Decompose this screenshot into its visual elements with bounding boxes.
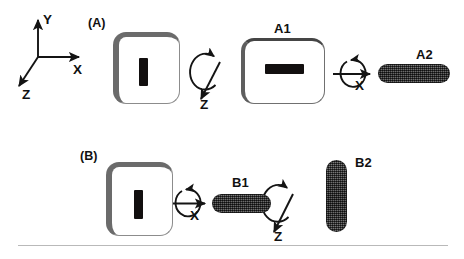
rotation-sequence-figure: Y X Z (A) Z A1 X A2 (B) X B1 Z B2 [0,0,464,259]
rotation-arrow-a-z [188,52,220,99]
vector-overlay [0,0,464,259]
object-label-a1: A1 [274,22,291,35]
rotation-arrow-a-x [333,60,370,87]
object-a-start-card [113,32,180,104]
axes-key-glyph [19,20,79,86]
rotation-axis-label-b-x: X [190,209,199,223]
marker-vertical-bar [139,58,148,86]
rotation-axis-label-b-z: Z [274,230,282,244]
marker-horizontal-bar [265,64,304,74]
object-label-b2: B2 [355,156,372,169]
rotation-axis-label-a-z: Z [200,98,208,112]
rotation-arrow-b-x [168,189,205,216]
panel-label-b: (B) [80,150,97,163]
bottom-divider [18,245,448,246]
axis-label-z: Z [22,88,30,102]
axis-label-x: X [73,63,82,77]
object-b1-rod [212,194,271,213]
object-label-b1: B1 [232,176,249,189]
object-b2-rod [326,160,347,232]
marker-vertical-bar [134,190,143,219]
panel-label-a: (A) [88,17,105,30]
object-a2-rod [378,64,450,83]
object-b-start-card [106,162,173,236]
object-label-a2: A2 [416,48,433,61]
rotation-axis-label-a-x: X [355,79,364,93]
object-a1-card [241,38,325,104]
axis-label-y: Y [43,13,52,27]
